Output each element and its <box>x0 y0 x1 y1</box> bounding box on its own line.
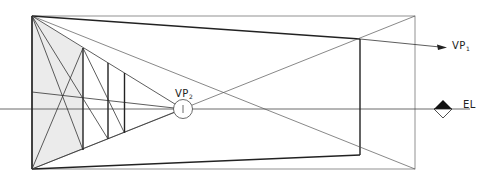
vp1-label: VP1 <box>452 40 470 52</box>
vp1-arrow-icon <box>437 45 447 51</box>
eye-level-label: EL <box>463 99 476 110</box>
eye-level-marker-top-icon <box>434 100 452 109</box>
face-diagonal-4 <box>83 48 125 133</box>
eye-level-marker-bottom-icon <box>434 109 452 118</box>
bottom-edge <box>32 155 360 169</box>
perspective-diagram <box>0 0 497 178</box>
vp1-line <box>360 39 440 47</box>
vp2-label: VP2 <box>175 88 193 100</box>
